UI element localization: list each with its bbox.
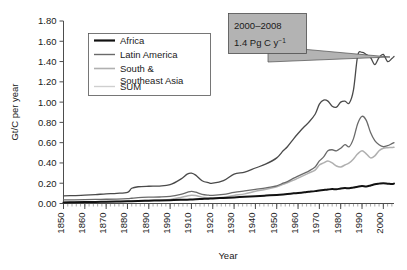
x-axis-tick-labels: 1850186018701880189019901910192019301940… bbox=[55, 213, 386, 234]
x-tick-label: 1880 bbox=[118, 213, 129, 234]
x-tick-label: 1930 bbox=[225, 213, 236, 234]
x-tick-label: 1870 bbox=[97, 213, 108, 234]
x-tick-label: 1970 bbox=[310, 213, 321, 234]
x-tick-label: 1990 bbox=[161, 213, 172, 234]
chart-legend: AfricaLatin AmericaSouth &Southeast Asia… bbox=[89, 34, 211, 96]
x-tick-label: 1850 bbox=[55, 213, 66, 234]
legend-label: SUM bbox=[120, 81, 141, 92]
legend-label: South & bbox=[120, 63, 154, 74]
y-tick-label: 0.80 bbox=[38, 117, 57, 128]
callout-line-2-text: 1.4 Pg C y bbox=[234, 37, 279, 48]
callout-line-2: 1.4 Pg C y−1 bbox=[234, 37, 286, 49]
y-tick-label: 1.60 bbox=[38, 36, 57, 47]
x-tick-label: 1940 bbox=[246, 213, 257, 234]
y-tick-label: 1.00 bbox=[38, 97, 57, 108]
chart-container: 0.000.200.400.600.801.001.201.401.601.80… bbox=[0, 0, 407, 270]
y-tick-label: 0.40 bbox=[38, 157, 57, 168]
x-tick-label: 1920 bbox=[204, 213, 215, 234]
callout-line-2-superscript: −1 bbox=[278, 37, 286, 44]
y-tick-label: 0.60 bbox=[38, 137, 57, 148]
x-axis-major-ticks bbox=[64, 204, 384, 210]
x-tick-label: 1980 bbox=[332, 213, 343, 234]
legend-label: Latin America bbox=[120, 49, 178, 60]
y-axis-ticks bbox=[60, 21, 64, 204]
y-axis-tick-labels: 0.000.200.400.600.801.001.201.401.601.80 bbox=[38, 15, 57, 209]
y-tick-label: 1.20 bbox=[38, 76, 57, 87]
y-tick-label: 1.40 bbox=[38, 56, 57, 67]
x-tick-label: 1950 bbox=[268, 213, 279, 234]
sum-peak-callout: 2000–2008 1.4 Pg C y−1 bbox=[229, 14, 391, 63]
x-tick-label: 2000 bbox=[374, 213, 385, 234]
emissions-line-chart: 0.000.200.400.600.801.001.201.401.601.80… bbox=[0, 0, 407, 270]
callout-line-1: 2000–2008 bbox=[234, 20, 282, 31]
x-tick-label: 1960 bbox=[289, 213, 300, 234]
y-tick-label: 0.00 bbox=[38, 198, 57, 209]
y-tick-label: 0.20 bbox=[38, 178, 57, 189]
legend-label: Africa bbox=[120, 35, 145, 46]
x-tick-label: 1890 bbox=[140, 213, 151, 234]
y-tick-label: 1.80 bbox=[38, 15, 57, 26]
x-tick-label: 1860 bbox=[76, 213, 87, 234]
y-axis-title: Gt/C per year bbox=[9, 83, 20, 140]
x-axis-title: Year bbox=[218, 250, 237, 261]
x-tick-label: 1910 bbox=[182, 213, 193, 234]
x-tick-label: 1990 bbox=[353, 213, 364, 234]
